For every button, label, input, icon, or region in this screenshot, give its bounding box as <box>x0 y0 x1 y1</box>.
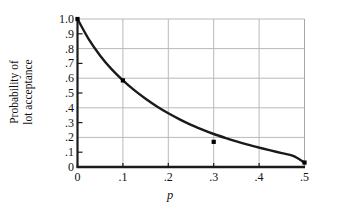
data-point-markers <box>75 17 306 165</box>
x-axis-tick-labels: 0.1.2.3.4.5 <box>0 170 340 188</box>
oc-curve-line <box>78 19 305 163</box>
x-tick-label: .5 <box>290 170 320 184</box>
data-point-marker <box>212 140 216 144</box>
horizontal-gridlines <box>78 19 305 137</box>
x-tick-label: .4 <box>244 170 274 184</box>
x-tick-label: .1 <box>108 170 138 184</box>
data-point-marker <box>121 78 125 82</box>
x-tick-label: .2 <box>153 170 183 184</box>
vertical-gridlines <box>123 19 259 167</box>
x-tick-label: 0 <box>63 170 93 184</box>
x-axis-title: p <box>0 188 340 203</box>
data-point-marker <box>75 17 79 21</box>
oc-curve-figure: Probability of lot acceptance 0.1.2.3.4.… <box>0 0 340 212</box>
data-point-marker <box>302 160 306 164</box>
x-tick-label: .3 <box>199 170 229 184</box>
